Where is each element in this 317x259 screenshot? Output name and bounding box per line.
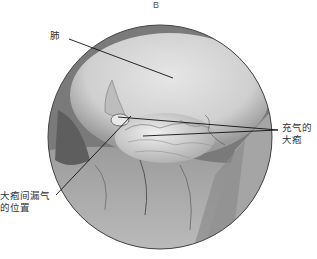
label-inflated-bulla: 充气的 大疱 <box>282 122 312 146</box>
thoracoscopic-figure: B <box>0 0 317 259</box>
label-lung: 肺 <box>50 30 60 42</box>
scope-view <box>40 20 280 259</box>
label-leak-site: 大疱间漏气 的位置 <box>0 190 50 214</box>
endoscopic-illustration <box>0 0 317 259</box>
